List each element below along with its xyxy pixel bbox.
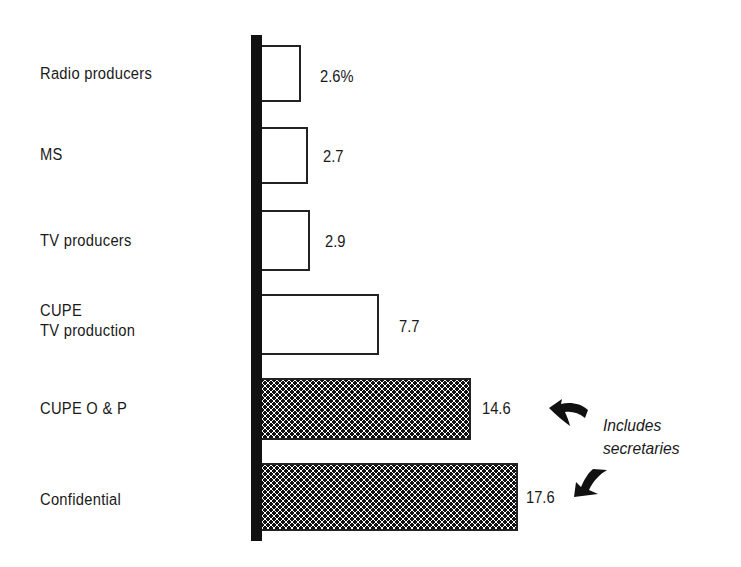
category-label-cupe-tv-production-line2: TV production [40, 321, 135, 341]
category-label-tv-producers: TV producers [40, 231, 132, 251]
curved-arrow-left-icon [548, 396, 590, 428]
bar-cupe-tv-production [262, 294, 379, 355]
value-label-cupe-o-p: 14.6 [482, 399, 511, 419]
horizontal-bar-chart: Radio producers MS TV producers CUPE TV … [0, 0, 741, 567]
curved-arrow-down-left-icon [572, 468, 608, 500]
category-label-radio-producers: Radio producers [40, 64, 152, 84]
value-label-confidential: 17.6 [526, 488, 555, 508]
value-label-cupe-tv-production: 7.7 [399, 317, 419, 337]
bar-radio-producers [262, 45, 301, 102]
category-label-ms: MS [40, 145, 63, 165]
category-label-cupe-line1: CUPE [40, 301, 82, 321]
value-label-ms: 2.7 [323, 147, 343, 167]
annotation-text: Includes secretaries [603, 414, 679, 460]
annotation-line2: secretaries [603, 437, 679, 460]
value-label-tv-producers: 2.9 [325, 232, 345, 252]
value-label-radio-producers: 2.6% [320, 67, 354, 87]
annotation-line1: Includes [603, 414, 679, 437]
bar-tv-producers [262, 210, 310, 271]
category-label-cupe-o-p: CUPE O & P [40, 399, 127, 419]
category-label-confidential: Confidential [40, 490, 121, 510]
bar-cupe-o-p [262, 378, 471, 440]
bar-confidential [262, 463, 518, 531]
vertical-axis [251, 35, 262, 541]
bar-ms [262, 127, 308, 184]
